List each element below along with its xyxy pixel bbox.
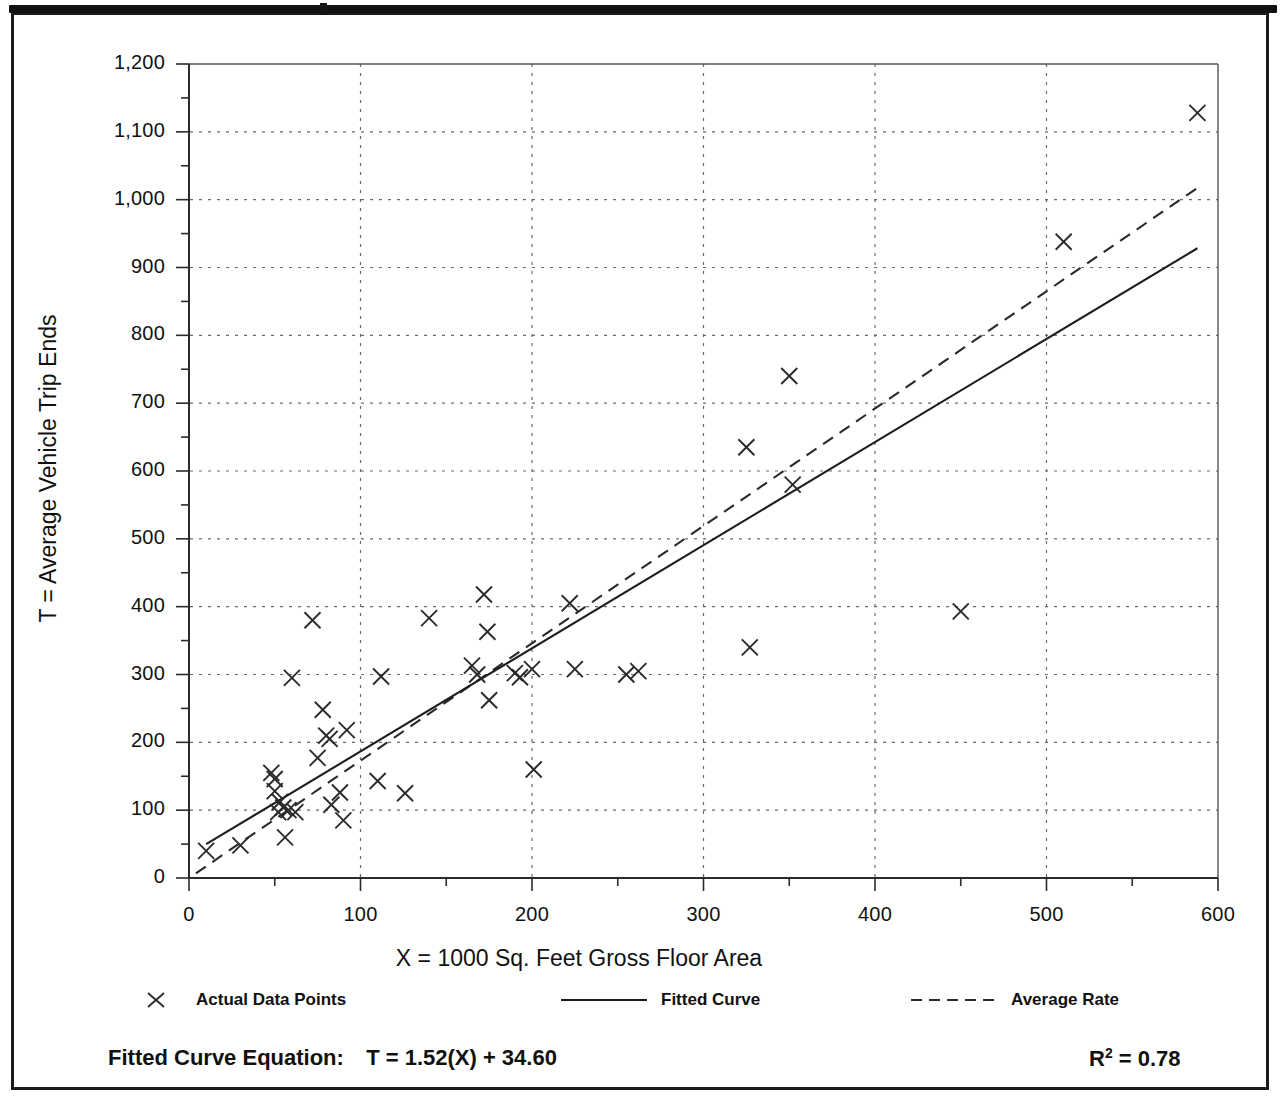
equation-expression: T = 1.52(X) + 34.60	[366, 1045, 557, 1070]
y-axis-title: T = Average Vehicle Trip Ends	[35, 259, 62, 679]
y-axis-ticks	[176, 64, 189, 878]
y-tick-label: 0	[85, 865, 165, 888]
r-squared-symbol: R	[1089, 1046, 1105, 1071]
y-tick-label: 1,000	[85, 187, 165, 210]
y-tick-label: 1,200	[85, 51, 165, 74]
equation-label: Fitted Curve Equation:	[108, 1045, 344, 1070]
scatter-plot-svg	[14, 15, 1272, 1093]
y-tick-label: 400	[85, 594, 165, 617]
dashed-line-icon	[909, 990, 961, 1010]
fitted-curve-equation: Fitted Curve Equation: T = 1.52(X) + 34.…	[108, 1045, 557, 1071]
y-tick-label: 100	[85, 797, 165, 820]
r-squared-value: = 0.78	[1119, 1046, 1181, 1071]
y-tick-label: 900	[85, 255, 165, 278]
x-marker-icon	[132, 990, 184, 1010]
plot-area-wrapper: 01002003004005006007008009001,0001,1001,…	[14, 15, 1272, 1093]
x-tick-label: 400	[840, 903, 910, 926]
x-tick-label: 100	[326, 903, 396, 926]
x-tick-label: 500	[1012, 903, 1082, 926]
x-tick-label: 600	[1183, 903, 1253, 926]
x-tick-label: 0	[154, 903, 224, 926]
legend-item-fitted-curve[interactable]: Fitted Curve	[559, 990, 760, 1010]
y-tick-label: 200	[85, 729, 165, 752]
x-tick-label: 200	[497, 903, 567, 926]
y-tick-label: 700	[85, 390, 165, 413]
chart-figure-frame: 01002003004005006007008009001,0001,1001,…	[11, 12, 1269, 1090]
x-axis-title: X = 1000 Sq. Feet Gross Floor Area	[14, 945, 1144, 972]
legend-label-average-rate: Average Rate	[1011, 990, 1119, 1010]
legend-label-fitted-curve: Fitted Curve	[661, 990, 760, 1010]
y-tick-label: 800	[85, 322, 165, 345]
r-squared-exponent: 2	[1105, 1045, 1113, 1061]
legend-label-actual-data-points: Actual Data Points	[196, 990, 346, 1010]
legend-item-actual-data-points[interactable]: Actual Data Points	[132, 990, 346, 1010]
legend-item-average-rate[interactable]: Average Rate	[909, 990, 1119, 1010]
chart-legend: Actual Data Points Fitted Curve Average …	[14, 990, 1272, 1028]
y-tick-label: 500	[85, 526, 165, 549]
solid-line-icon	[559, 990, 611, 1010]
x-axis-ticks	[189, 878, 1218, 891]
annotation-row: Fitted Curve Equation: T = 1.52(X) + 34.…	[14, 1045, 1272, 1085]
y-tick-label: 300	[85, 662, 165, 685]
frame-top-nub	[320, 3, 327, 15]
y-tick-label: 600	[85, 458, 165, 481]
y-tick-label: 1,100	[85, 119, 165, 142]
x-tick-label: 300	[669, 903, 739, 926]
r-squared-annotation: R2 = 0.78	[1089, 1045, 1181, 1072]
